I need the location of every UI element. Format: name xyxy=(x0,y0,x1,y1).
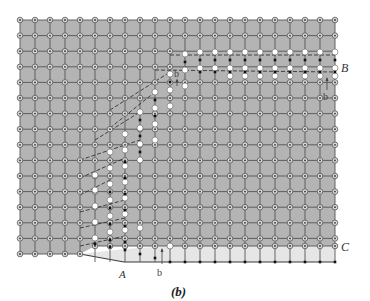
atom xyxy=(62,220,68,226)
lower-atom xyxy=(154,99,157,102)
lower-atom xyxy=(109,239,112,242)
atom xyxy=(332,243,338,249)
atom xyxy=(137,204,143,210)
atom xyxy=(197,126,203,132)
upper-atom xyxy=(332,65,338,71)
atom xyxy=(17,17,23,23)
upper-atom xyxy=(137,225,143,231)
atom xyxy=(32,111,38,117)
crystal-lattice-diagram: B C A b b b (b) xyxy=(0,0,370,301)
atom xyxy=(182,17,188,23)
atom xyxy=(107,142,113,148)
lower-atom xyxy=(154,257,157,260)
atom xyxy=(212,220,218,226)
atom xyxy=(137,95,143,101)
atom xyxy=(182,204,188,210)
upper-atom xyxy=(137,141,143,147)
atom xyxy=(197,33,203,39)
atom xyxy=(287,111,293,117)
atom xyxy=(77,173,83,179)
upper-atom xyxy=(137,125,143,131)
atom xyxy=(272,111,278,117)
atom xyxy=(242,80,248,86)
atom xyxy=(17,236,23,242)
atom xyxy=(77,251,83,257)
lower-atom xyxy=(229,261,232,264)
atom xyxy=(257,204,263,210)
atom xyxy=(17,33,23,39)
atom xyxy=(287,204,293,210)
atom xyxy=(107,80,113,86)
atom xyxy=(212,33,218,39)
lower-atom xyxy=(124,241,127,244)
atom xyxy=(197,236,203,242)
atom xyxy=(272,17,278,23)
atom xyxy=(17,142,23,148)
atom xyxy=(287,243,293,249)
atom xyxy=(212,111,218,117)
atom xyxy=(332,189,338,195)
atom xyxy=(17,251,23,257)
atom xyxy=(47,251,53,257)
upper-atom xyxy=(152,121,158,127)
lower-atom xyxy=(274,59,277,62)
atom xyxy=(32,80,38,86)
upper-atom xyxy=(332,49,338,55)
atom xyxy=(77,189,83,195)
atom xyxy=(287,236,293,242)
burgers-vector-label-right: b xyxy=(323,91,328,102)
atom xyxy=(332,173,338,179)
figure-caption: (b) xyxy=(171,284,186,299)
atom xyxy=(212,126,218,132)
slipped-region xyxy=(80,246,335,262)
upper-atom xyxy=(227,65,233,71)
atom xyxy=(92,33,98,39)
atom xyxy=(77,126,83,132)
lower-atom xyxy=(334,59,337,62)
atom xyxy=(32,64,38,70)
atom xyxy=(257,189,263,195)
atom xyxy=(77,17,83,23)
upper-atom xyxy=(107,149,113,155)
atom xyxy=(272,243,278,249)
atom xyxy=(32,236,38,242)
atom xyxy=(137,189,143,195)
atom xyxy=(332,95,338,101)
atom xyxy=(47,111,53,117)
atom xyxy=(92,95,98,101)
atom xyxy=(152,64,158,70)
upper-atom xyxy=(302,49,308,55)
atom xyxy=(287,158,293,164)
atom xyxy=(182,95,188,101)
atom xyxy=(212,204,218,210)
atom xyxy=(257,80,263,86)
upper-atom xyxy=(272,49,278,55)
atom xyxy=(227,158,233,164)
lower-atom xyxy=(94,243,97,246)
lower-atom xyxy=(139,119,142,122)
atom xyxy=(32,142,38,148)
lower-atom xyxy=(244,71,247,74)
atom xyxy=(332,220,338,226)
lower-atom xyxy=(244,59,247,62)
atom xyxy=(77,48,83,54)
atom xyxy=(77,158,83,164)
atom xyxy=(77,142,83,148)
atom xyxy=(17,95,23,101)
atom xyxy=(122,243,128,249)
atom xyxy=(317,33,323,39)
atom xyxy=(77,33,83,39)
atom xyxy=(17,111,23,117)
atom xyxy=(62,48,68,54)
burgers-vector-label-top: b xyxy=(174,68,179,79)
atom xyxy=(107,126,113,132)
atom xyxy=(302,243,308,249)
atom xyxy=(62,95,68,101)
upper-atom xyxy=(302,65,308,71)
atom xyxy=(302,126,308,132)
atom xyxy=(62,173,68,179)
atom xyxy=(167,204,173,210)
atom xyxy=(152,17,158,23)
atom xyxy=(197,173,203,179)
atom xyxy=(152,243,158,249)
